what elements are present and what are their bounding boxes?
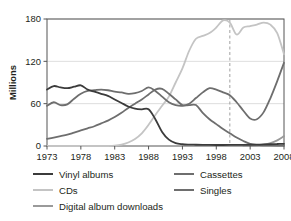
legend-column-left: Vinyl albumsCDsDigital album downloads <box>33 166 163 214</box>
x-tick-label: 1988 <box>138 151 159 162</box>
y-tick-label: 120 <box>25 56 41 67</box>
tick-marks <box>44 19 285 150</box>
y-axis-title: Millions <box>7 65 18 100</box>
legend-label: Vinyl albums <box>59 169 113 180</box>
legend-label: CDs <box>59 185 78 196</box>
legend-swatch-line-icon <box>174 189 194 191</box>
plot-frame <box>47 19 284 146</box>
x-tick-label: 2008 <box>274 151 291 162</box>
legend-swatch-line-icon <box>33 205 53 207</box>
legend-label: Digital album downloads <box>59 201 163 212</box>
x-tick-label: 1978 <box>70 151 91 162</box>
chart-figure: 060120180 197319781983198819931998200320… <box>0 0 291 221</box>
chart-legend: Vinyl albumsCDsDigital album downloads C… <box>0 166 291 221</box>
series-line-vinyl-albums <box>47 85 284 145</box>
legend-item[interactable]: Singles <box>174 182 243 198</box>
legend-swatch-line-icon <box>33 173 53 175</box>
x-tick-label: 1998 <box>206 151 227 162</box>
x-tick-label: 1983 <box>104 151 125 162</box>
series-line-cds <box>47 20 284 146</box>
legend-swatch-line-icon <box>174 173 194 175</box>
x-tick-label: 2003 <box>240 151 261 162</box>
chart-plot-region: 060120180 197319781983198819931998200320… <box>0 0 291 166</box>
legend-label: Cassettes <box>200 169 243 180</box>
y-tick-label: 0 <box>36 140 41 151</box>
legend-item[interactable]: CDs <box>33 182 163 198</box>
x-tick-label: 1993 <box>172 151 193 162</box>
legend-swatch-line-icon <box>33 189 53 191</box>
y-tick-label: 180 <box>25 13 41 24</box>
series-layer <box>47 20 284 146</box>
legend-item[interactable]: Digital album downloads <box>33 198 163 214</box>
legend-item[interactable]: Cassettes <box>174 166 243 182</box>
x-axis-tick-labels: 19731978198319881993199820032008 <box>37 151 291 162</box>
plot-border <box>47 19 284 146</box>
legend-item[interactable]: Vinyl albums <box>33 166 163 182</box>
x-tick-label: 1973 <box>37 151 58 162</box>
line-chart-svg: 060120180 197319781983198819931998200320… <box>0 0 291 166</box>
y-tick-label: 60 <box>31 98 41 109</box>
y-axis-tick-labels: 060120180 <box>25 13 41 151</box>
legend-column-right: CassettesSingles <box>174 166 243 198</box>
legend-label: Singles <box>200 185 231 196</box>
